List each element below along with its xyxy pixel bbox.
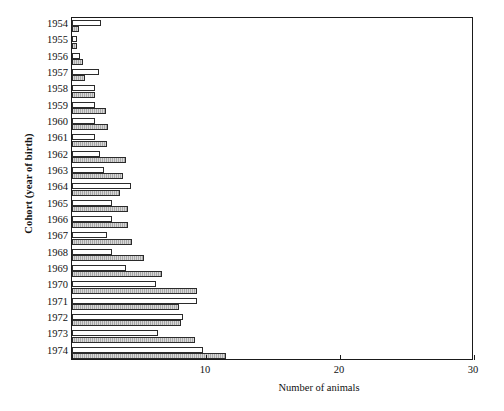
bar-white-1968 (72, 249, 112, 255)
y-tick-label-1959: 1959 (28, 101, 68, 112)
bar-white-1959 (72, 102, 95, 108)
bar-white-1969 (72, 265, 126, 271)
bar-gray-1964 (72, 190, 120, 196)
bar-white-1960 (72, 118, 95, 124)
bar-white-1956 (72, 53, 80, 59)
x-tick-mark-0 (72, 355, 73, 360)
bar-gray-1974 (72, 353, 226, 359)
bar-white-1962 (72, 151, 100, 157)
y-tick-label-1964: 1964 (28, 182, 68, 193)
bar-white-1973 (72, 330, 158, 336)
bar-gray-1957 (72, 75, 85, 81)
x-axis-title: Number of animals (0, 382, 504, 393)
y-tick-label-1956: 1956 (28, 52, 68, 63)
y-tick-label-1963: 1963 (28, 166, 68, 177)
y-tick-label-1961: 1961 (28, 133, 68, 144)
y-tick-label-1974: 1974 (28, 346, 68, 357)
y-tick-label-1954: 1954 (28, 19, 68, 30)
y-tick-label-1971: 1971 (28, 297, 68, 308)
bar-gray-1960 (72, 124, 108, 130)
bar-gray-1961 (72, 141, 107, 147)
y-tick-label-1958: 1958 (28, 84, 68, 95)
y-tick-label-1970: 1970 (28, 280, 68, 291)
bar-white-1967 (72, 232, 107, 238)
bar-gray-1973 (72, 337, 195, 343)
bar-gray-1954 (72, 26, 79, 32)
bar-white-1963 (72, 167, 104, 173)
bar-white-1958 (72, 85, 95, 91)
bar-white-1954 (72, 20, 101, 26)
bar-white-1966 (72, 216, 112, 222)
y-tick-label-1957: 1957 (28, 68, 68, 79)
bar-white-1964 (72, 183, 131, 189)
y-tick-label-1972: 1972 (28, 313, 68, 324)
bar-chart: Cohort (year of birth) 19541955195619571… (0, 0, 504, 411)
bar-gray-1972 (72, 320, 181, 326)
bar-white-1971 (72, 298, 197, 304)
x-tick-mark-30 (474, 355, 475, 360)
bar-white-1961 (72, 134, 95, 140)
y-tick-label-1973: 1973 (28, 329, 68, 340)
bars-container (72, 18, 472, 359)
bar-gray-1962 (72, 157, 126, 163)
plot-area (71, 17, 473, 360)
bar-white-1970 (72, 281, 156, 287)
bar-white-1965 (72, 200, 112, 206)
y-axis-tick-labels: 1954195519561957195819591960196119621963… (28, 18, 68, 359)
x-tick-mark-10 (206, 355, 207, 360)
bar-white-1974 (72, 347, 203, 353)
bar-gray-1968 (72, 255, 144, 261)
bar-gray-1956 (72, 59, 83, 65)
x-tick-mark-20 (340, 355, 341, 360)
bar-gray-1969 (72, 271, 162, 277)
y-tick-label-1966: 1966 (28, 215, 68, 226)
y-tick-label-1965: 1965 (28, 199, 68, 210)
bar-gray-1959 (72, 108, 106, 114)
bar-gray-1967 (72, 239, 132, 245)
x-tick-label-10: 10 (185, 364, 225, 375)
y-tick-label-1967: 1967 (28, 231, 68, 242)
y-tick-label-1962: 1962 (28, 150, 68, 161)
x-tick-label-30: 30 (453, 364, 493, 375)
bar-gray-1955 (72, 43, 77, 49)
bar-white-1957 (72, 69, 99, 75)
bar-gray-1965 (72, 206, 128, 212)
bar-white-1955 (72, 36, 77, 42)
bar-white-1972 (72, 314, 183, 320)
bar-gray-1970 (72, 288, 197, 294)
bar-gray-1971 (72, 304, 179, 310)
y-tick-label-1968: 1968 (28, 248, 68, 259)
y-tick-label-1960: 1960 (28, 117, 68, 128)
bar-gray-1966 (72, 222, 128, 228)
y-tick-label-1969: 1969 (28, 264, 68, 275)
y-tick-label-1955: 1955 (28, 35, 68, 46)
x-tick-label-20: 20 (319, 364, 359, 375)
bar-gray-1963 (72, 173, 123, 179)
bar-gray-1958 (72, 92, 95, 98)
